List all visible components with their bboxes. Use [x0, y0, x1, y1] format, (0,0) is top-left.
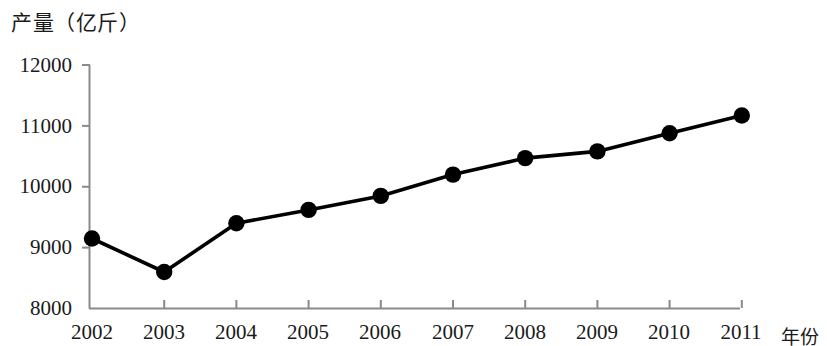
line-chart: 产量（亿斤） 年份 8000 9000 10000 11000 12000 20…: [0, 0, 827, 346]
data-point-2004: [228, 215, 244, 231]
data-point-2011: [734, 107, 750, 123]
data-point-2007: [445, 166, 461, 182]
data-line-series-chanliang: [92, 116, 742, 273]
data-point-markers: [84, 107, 750, 280]
data-point-2009: [589, 143, 605, 159]
x-axis-ticks: [164, 300, 742, 308]
data-point-2003: [156, 264, 172, 280]
data-point-2008: [517, 150, 533, 166]
data-point-2002: [84, 230, 100, 246]
data-point-2005: [300, 202, 316, 218]
plot-area: [0, 0, 827, 346]
data-point-2006: [373, 188, 389, 204]
data-point-2010: [661, 125, 677, 141]
